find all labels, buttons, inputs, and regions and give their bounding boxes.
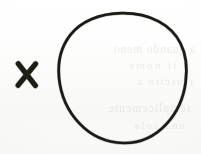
scanned-page: a quando meno e il nome riuscito a sempl… <box>0 0 201 154</box>
x-mark-icon <box>13 59 41 89</box>
